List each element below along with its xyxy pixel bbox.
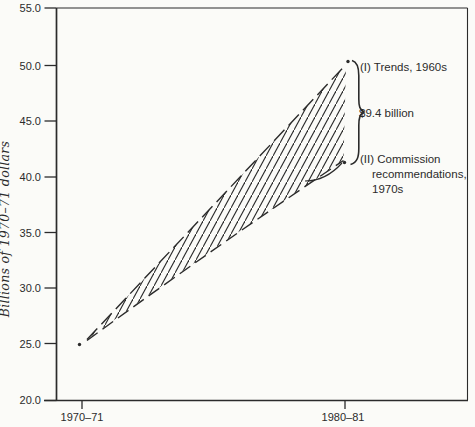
y-tick-label: 25.0 [20, 338, 41, 350]
y-ticks [45, 8, 57, 401]
x-tick-label: 1970–71 [61, 411, 104, 423]
series2-label-line3: 1970s [372, 183, 404, 195]
series2-label-line1: (II) Commission [360, 153, 441, 165]
projection-wedge [78, 60, 350, 346]
fan-chart: 55.0 50.0 45.0 40.0 35.0 30.0 25.0 20.0 … [0, 0, 475, 427]
y-axis-title: Billions of 1970–71 dollars [0, 141, 12, 319]
series2-label-line2: recommendations, [372, 168, 467, 180]
x-tick-labels: 1970–71 1980–81 [61, 411, 365, 423]
annotation-labels: (I) Trends, 1960s $9.4 billion (II) Comm… [359, 61, 467, 195]
y-tick-label: 45.0 [20, 115, 41, 127]
y-tick-label: 50.0 [20, 60, 41, 72]
upper-end-dot [346, 60, 349, 63]
lower-end-dot [343, 161, 346, 164]
y-tick-labels: 55.0 50.0 45.0 40.0 35.0 30.0 25.0 20.0 [20, 2, 41, 406]
start-point-dot [78, 343, 81, 346]
y-tick-label: 20.0 [20, 394, 41, 406]
y-tick-label: 35.0 [20, 227, 41, 239]
x-ticks [82, 401, 345, 410]
y-tick-label: 55.0 [20, 2, 41, 14]
x-tick-label: 1980–81 [322, 411, 365, 423]
figure: 55.0 50.0 45.0 40.0 35.0 30.0 25.0 20.0 … [0, 0, 475, 427]
gap-label: $9.4 billion [359, 107, 414, 119]
series1-label: (I) Trends, 1960s [360, 61, 447, 73]
y-tick-label: 30.0 [20, 282, 41, 294]
y-tick-label: 40.0 [20, 171, 41, 183]
trend-line-lower [87, 161, 344, 341]
